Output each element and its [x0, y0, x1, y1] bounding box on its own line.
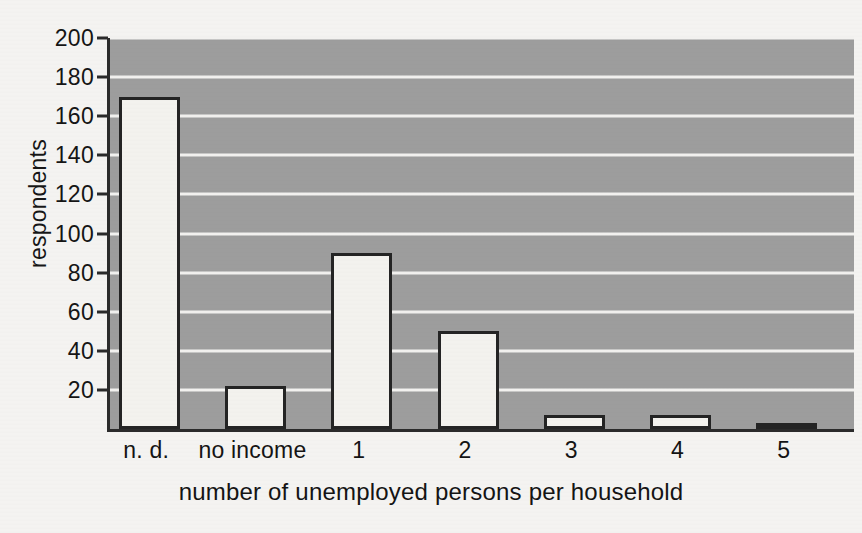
x-axis-title: number of unemployed persons per househo… [0, 478, 862, 506]
y-axis-tick-mark [97, 76, 108, 79]
bar [119, 97, 180, 429]
bar-series [110, 38, 854, 429]
y-axis-tick-mark [97, 193, 108, 196]
y-axis-tick-mark [97, 232, 108, 235]
y-axis-tick-label: 180 [28, 64, 94, 91]
x-axis-tick-label: 5 [777, 437, 790, 464]
x-axis-tick-labels: n. d.no income12345 [107, 437, 851, 471]
y-axis-tick-mark [97, 115, 108, 118]
bar [544, 415, 605, 429]
y-axis-tick-label: 60 [28, 298, 94, 325]
x-axis-tick-label: 1 [352, 437, 365, 464]
bar [331, 253, 392, 429]
y-axis-tick-label: 40 [28, 337, 94, 364]
x-axis-tick-label: no income [198, 437, 306, 464]
y-axis-tick-labels: 20406080100120140160180200 [28, 0, 94, 533]
y-axis-tick-label: 200 [28, 25, 94, 52]
y-axis-tick-label: 120 [28, 181, 94, 208]
bar-chart-figure: respondents 20406080100120140160180200 n… [0, 0, 862, 533]
y-axis-tick-label: 20 [28, 376, 94, 403]
y-axis-tick-mark [97, 349, 108, 352]
y-axis-tick-label: 80 [28, 259, 94, 286]
y-axis-tick-mark [97, 37, 108, 40]
plot-area [107, 38, 854, 432]
y-axis-tick-label: 100 [28, 220, 94, 247]
y-axis-tick-label: 140 [28, 142, 94, 169]
bar [225, 386, 286, 429]
x-axis-tick-label: 2 [459, 437, 472, 464]
y-axis-tick-mark [97, 388, 108, 391]
y-axis-tick-label: 160 [28, 103, 94, 130]
y-axis-tick-mark [97, 271, 108, 274]
bar [438, 331, 499, 429]
bar [650, 415, 711, 429]
x-axis-tick-label: 3 [565, 437, 578, 464]
y-axis-tick-mark [97, 154, 108, 157]
y-axis-tick-mark [97, 310, 108, 313]
bar [756, 423, 817, 429]
x-axis-tick-label: n. d. [123, 437, 169, 464]
x-axis-tick-label: 4 [671, 437, 684, 464]
